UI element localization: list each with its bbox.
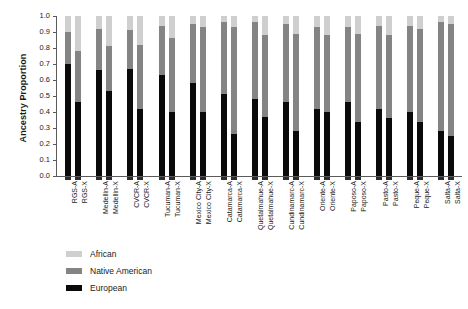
bar-segment-african (159, 16, 165, 26)
x-axis-tick-mark (127, 177, 133, 180)
bar-segment-european (252, 99, 258, 176)
bar-segment-native-american (293, 34, 299, 132)
stacked-bar (448, 16, 454, 176)
bar-segment-african (324, 16, 330, 35)
x-axis-tick-mark (376, 177, 382, 180)
legend-swatch (66, 268, 82, 274)
y-axis-tick-label: 0.6 (40, 75, 50, 85)
x-axis-label: Salta-X (454, 181, 461, 204)
x-axis-tick-mark (96, 177, 102, 180)
x-axis-label: CVCR-A (133, 181, 140, 208)
x-axis-tick-mark (252, 177, 258, 180)
y-axis-tick-label: 1.0 (40, 11, 50, 21)
x-axis-label: Paposo-A (350, 181, 357, 212)
bar-segment-european (293, 131, 299, 176)
y-axis-tick-label: 0.1 (40, 155, 50, 165)
stacked-bar (137, 16, 143, 176)
x-axis-label: Quetalmahue-A (257, 181, 264, 230)
legend-label: Native American (90, 266, 152, 276)
bar-segment-european (314, 109, 320, 176)
bar-segment-european (376, 109, 382, 176)
bar-segment-native-american (345, 27, 351, 102)
bar-segment-african (200, 16, 206, 27)
x-axis-label: Catamarca-A (226, 181, 233, 222)
bar-segment-african (262, 16, 268, 35)
bar-segment-european (386, 118, 392, 176)
stacked-bar (200, 16, 206, 176)
x-axis-label: Catamarca-X (236, 181, 243, 222)
x-axis-labels: RGS-ARGS-XMedellin-AMedellin-XCVCR-ACVCR… (57, 181, 461, 243)
bar-segment-native-american (200, 27, 206, 112)
x-axis-label: Tucuman-A (164, 181, 171, 217)
bar-segment-african (96, 16, 102, 29)
bar-segment-african (314, 16, 320, 27)
stacked-bar (283, 16, 289, 176)
x-axis-tick-mark (75, 177, 81, 180)
bar-segment-native-american (190, 24, 196, 83)
stacked-bar (407, 16, 413, 176)
bar-segment-african (345, 16, 351, 27)
x-axis-tick-mark (293, 177, 299, 180)
bar-segment-native-american (252, 22, 258, 99)
bar-segment-native-american (324, 35, 330, 112)
y-axis-tick-label: 0.0 (40, 171, 50, 181)
bar-segment-african (75, 16, 81, 51)
bar-segment-native-american (127, 30, 133, 68)
stacked-bar (262, 16, 268, 176)
stacked-bar (190, 16, 196, 176)
bar-segment-european (345, 102, 351, 176)
bar-segment-african (169, 16, 175, 38)
bar-segment-native-american (438, 22, 444, 131)
bar-segment-european (200, 112, 206, 176)
y-axis-tick-label: 0.9 (40, 27, 50, 37)
x-axis-tick-mark (262, 177, 268, 180)
stacked-bar (345, 16, 351, 176)
stacked-bar (127, 16, 133, 176)
bar-segment-european (355, 122, 361, 176)
bar-segment-native-american (417, 29, 423, 122)
stacked-bar (355, 16, 361, 176)
stacked-bar (75, 16, 81, 176)
bar-segment-native-american (407, 26, 413, 112)
chart-legend: AfricanNative AmericanEuropean (66, 246, 246, 297)
stacked-bar (159, 16, 165, 176)
stacked-bar (221, 16, 227, 176)
x-axis-label: Pasto-X (392, 181, 399, 206)
x-axis-label: Medellin-A (102, 181, 109, 214)
x-axis-label: RGS-A (71, 181, 78, 203)
bar-segment-native-american (65, 32, 71, 64)
bar-segment-european (75, 102, 81, 176)
x-axis-tick-mark (231, 177, 237, 180)
y-axis-tick-label: 0.5 (40, 91, 50, 101)
x-axis-tick-mark (106, 177, 112, 180)
bar-segment-african (221, 16, 227, 22)
ancestry-proportion-chart: Ancestry Proportion 1.00.90.80.70.60.50.… (0, 0, 468, 309)
bar-segment-african (376, 16, 382, 26)
bar-segment-african (283, 16, 289, 24)
stacked-bar (231, 16, 237, 176)
bar-segment-european (283, 102, 289, 176)
legend-label: African (90, 249, 116, 259)
x-axis-tick-mark (283, 177, 289, 180)
bar-segment-native-american (137, 45, 143, 109)
bar-segment-native-american (169, 38, 175, 112)
x-axis-label: Peque-X (423, 181, 430, 208)
bar-segment-native-american (159, 26, 165, 76)
bar-segment-native-american (231, 27, 237, 134)
x-axis-label: Mexico City-X (205, 181, 212, 224)
x-axis-tick-mark (314, 177, 320, 180)
x-axis-label: CVCR-X (143, 181, 150, 208)
legend-item: Native American (66, 263, 246, 278)
legend-item: European (66, 280, 246, 295)
bar-segment-african (448, 16, 454, 24)
y-axis-tick-label: 0.7 (40, 59, 50, 69)
x-axis-tick-mark (200, 177, 206, 180)
bar-segment-european (137, 109, 143, 176)
x-axis-label: RGS-X (81, 181, 88, 203)
bar-segment-european (324, 112, 330, 176)
y-axis-tick-label: 0.8 (40, 43, 50, 53)
bar-segment-african (407, 16, 413, 26)
legend-swatch (66, 285, 82, 291)
bar-segment-african (355, 16, 361, 34)
bar-segment-african (293, 16, 299, 34)
